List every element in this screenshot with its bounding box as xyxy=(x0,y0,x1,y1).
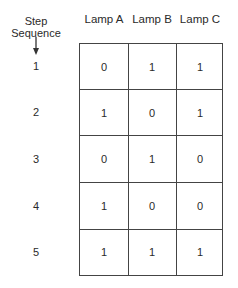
table-cell: 1 xyxy=(176,61,224,73)
table-cell: 0 xyxy=(80,153,128,165)
step-number: 1 xyxy=(6,60,66,72)
step-number: 2 xyxy=(6,106,66,118)
column-header-lamp-b: Lamp B xyxy=(128,13,176,25)
step-number: 3 xyxy=(6,153,66,165)
grid-divider xyxy=(80,229,222,230)
table-cell: 0 xyxy=(128,200,176,212)
table-cell: 1 xyxy=(128,246,176,258)
table-cell: 1 xyxy=(80,107,128,119)
table-cell: 1 xyxy=(80,246,128,258)
table-cell: 1 xyxy=(176,107,224,119)
column-header-lamp-c: Lamp C xyxy=(176,13,224,25)
table-cell: 0 xyxy=(176,200,224,212)
down-arrow-icon xyxy=(30,37,42,56)
step-label-line1: Step xyxy=(6,16,66,27)
table-cell: 1 xyxy=(128,61,176,73)
table-cell: 1 xyxy=(128,153,176,165)
grid-divider xyxy=(80,135,222,136)
step-number: 5 xyxy=(6,246,66,258)
step-number: 4 xyxy=(6,200,66,212)
grid-divider xyxy=(80,89,222,90)
table-cell: 0 xyxy=(80,61,128,73)
table-cell: 0 xyxy=(128,107,176,119)
truth-table-grid: 0 1 1 1 0 1 0 1 0 1 0 0 1 1 1 xyxy=(79,43,223,276)
table-cell: 0 xyxy=(176,153,224,165)
column-header-lamp-a: Lamp A xyxy=(80,13,128,25)
grid-divider xyxy=(80,182,222,183)
table-cell: 1 xyxy=(176,246,224,258)
table-cell: 1 xyxy=(80,200,128,212)
